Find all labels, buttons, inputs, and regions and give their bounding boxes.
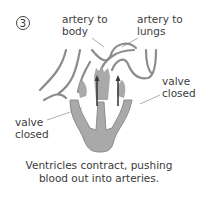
heart-wall xyxy=(70,100,132,152)
caption-line: Ventricles contract, pushing xyxy=(0,159,198,172)
caption-line: blood out into arteries. xyxy=(0,172,198,185)
diagram-caption: Ventricles contract, pushing blood out i… xyxy=(0,159,198,185)
